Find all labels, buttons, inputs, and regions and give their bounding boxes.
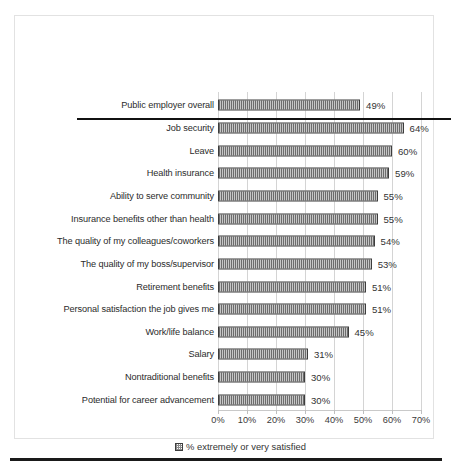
x-tick-mark	[392, 410, 393, 414]
legend-swatch-icon	[175, 443, 183, 451]
bar-value-label: 30%	[311, 394, 330, 405]
category-label: Public employer overall	[121, 100, 214, 110]
category-label: Leave	[189, 146, 214, 156]
bar	[218, 236, 375, 247]
bar-value-label: 53%	[378, 258, 397, 269]
bar-value-label: 45%	[355, 326, 374, 337]
bar-row: Ability to serve community55%	[15, 185, 451, 208]
bar-row: Leave60%	[15, 139, 451, 162]
bar	[218, 190, 378, 201]
bar-row: Public employer overall49%	[15, 94, 451, 117]
bar-value-label: 51%	[372, 304, 391, 315]
category-label: Work/life balance	[145, 327, 214, 337]
bar	[218, 145, 392, 156]
x-tick-mark	[247, 410, 248, 414]
bar-value-label: 49%	[366, 100, 385, 111]
bar	[218, 213, 378, 224]
x-tick-mark	[305, 410, 306, 414]
bar-row: Personal satisfaction the job gives me51…	[15, 298, 451, 321]
category-label: The quality of my boss/supervisor	[80, 259, 214, 269]
bar	[218, 372, 305, 383]
x-axis-line	[218, 410, 421, 411]
legend-label: % extremely or very satisfied	[186, 441, 306, 452]
bar-row: Job security64%	[15, 117, 451, 140]
x-tick-label: 30%	[296, 415, 314, 425]
bar-value-label: 31%	[314, 349, 333, 360]
chart-legend: % extremely or very satisfied	[15, 441, 451, 452]
category-label: Job security	[166, 123, 214, 133]
bar-value-label: 30%	[311, 372, 330, 383]
category-label: Health insurance	[147, 168, 214, 178]
bar-value-label: 64%	[410, 122, 429, 133]
bar-value-label: 55%	[384, 190, 403, 201]
category-label: Insurance benefits other than health	[71, 214, 214, 224]
bar	[218, 122, 404, 133]
bar-row: Insurance benefits other than health55%	[15, 207, 451, 230]
category-label: Retirement benefits	[136, 282, 214, 292]
bar-value-label: 51%	[372, 281, 391, 292]
x-tick-label: 20%	[267, 415, 285, 425]
category-label: Ability to serve community	[110, 191, 214, 201]
x-tick-mark	[276, 410, 277, 414]
bar-row: Nontraditional benefits30%	[15, 366, 451, 389]
bar	[218, 100, 360, 111]
page-divider-rule	[10, 458, 442, 461]
bar-row: Potential for career advancement30%	[15, 388, 451, 411]
x-tick-mark	[218, 410, 219, 414]
category-label: Potential for career advancement	[82, 395, 214, 405]
bar	[218, 258, 372, 269]
bar-rows: Public employer overall49%Job security64…	[15, 16, 451, 334]
bar	[218, 326, 349, 337]
category-label: Salary	[189, 349, 214, 359]
bar	[218, 394, 305, 405]
category-label: Nontraditional benefits	[125, 372, 214, 382]
bar	[218, 304, 366, 315]
x-tick-mark	[421, 410, 422, 414]
category-label: Personal satisfaction the job gives me	[64, 304, 214, 314]
bar-row: Work/life balance45%	[15, 321, 451, 344]
bar-value-label: 55%	[384, 213, 403, 224]
bar	[218, 281, 366, 292]
figure-page: Public employer overall49%Job security64…	[0, 0, 451, 469]
x-tick-label: 10%	[238, 415, 256, 425]
bar-row: Retirement benefits51%	[15, 275, 451, 298]
x-tick-mark	[334, 410, 335, 414]
bar	[218, 349, 308, 360]
bar-row: The quality of my boss/supervisor53%	[15, 253, 451, 276]
x-tick-label: 0%	[211, 415, 224, 425]
overall-separator-rule	[77, 118, 451, 120]
bar-row: Health insurance59%	[15, 162, 451, 185]
bar-value-label: 59%	[395, 168, 414, 179]
x-tick-label: 70%	[412, 415, 430, 425]
category-label: The quality of my colleagues/coworkers	[57, 236, 214, 246]
x-tick-mark	[363, 410, 364, 414]
bar-row: Salary31%	[15, 343, 451, 366]
bar	[218, 168, 389, 179]
bar-value-label: 54%	[381, 236, 400, 247]
bar-row: The quality of my colleagues/coworkers54…	[15, 230, 451, 253]
x-tick-label: 50%	[354, 415, 372, 425]
bar-value-label: 60%	[398, 145, 417, 156]
chart-frame: Public employer overall49%Job security64…	[14, 15, 434, 439]
x-tick-label: 60%	[383, 415, 401, 425]
x-tick-label: 40%	[325, 415, 343, 425]
